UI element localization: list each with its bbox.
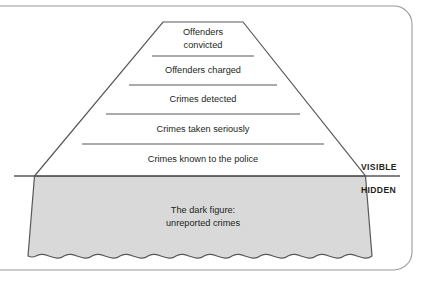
side-label-visible: VISIBLE [361,162,397,172]
hidden-region-shape [28,176,372,258]
tier-label-offenders-convicted-line2: convicted [184,40,223,50]
tier-label-offenders-convicted-line1: Offenders [183,27,224,37]
side-label-hidden: HIDDEN [361,185,396,195]
tier-label-crimes-taken-seriously: Crimes taken seriously [157,124,250,134]
tier-label-crimes-known-to-police: Crimes known to the police [148,154,258,164]
crime-pyramid-figure: Offenders convicted Offenders charged Cr… [0,0,430,287]
pyramid-diagram: Offenders convicted Offenders charged Cr… [0,0,430,287]
tier-label-crimes-detected: Crimes detected [170,94,237,104]
tier-label-offenders-charged: Offenders charged [165,65,241,75]
tier-label-dark-figure-line2: unreported crimes [166,218,240,228]
tier-label-dark-figure-line1: The dark figure: [171,205,235,215]
